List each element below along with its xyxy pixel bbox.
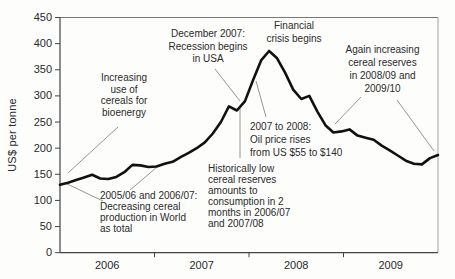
y-tick-label: 350 xyxy=(34,63,52,75)
y-axis-title: US$ per tonne xyxy=(6,98,18,172)
y-tick-label: 100 xyxy=(34,194,52,206)
leader-line-bioenergy xyxy=(68,127,118,173)
leader-line-decreasing-production xyxy=(130,167,157,190)
annotation-again-increasing: Again increasing cereal reserves in 2008… xyxy=(334,43,431,95)
leader-line-again-increasing xyxy=(397,100,434,151)
x-tick-label: 2009 xyxy=(379,259,403,271)
y-tick-label: 150 xyxy=(34,168,52,180)
y-tick-label: 200 xyxy=(34,142,52,154)
x-tick-label: 2008 xyxy=(284,259,308,271)
y-tick-label: 450 xyxy=(34,11,52,23)
annotation-financial-crisis: Financial crisis begins xyxy=(254,19,334,45)
leader-line-oil-price xyxy=(256,81,266,117)
y-tick-label: 50 xyxy=(40,220,52,232)
leader-line-recession xyxy=(215,69,240,101)
annotation-recession: December 2007: Recession begins in USA xyxy=(158,28,258,66)
y-tick-label: 250 xyxy=(34,116,52,128)
y-tick-label: 300 xyxy=(34,89,52,101)
annotation-oil-price: 2007 to 2008: Oil price rises from US $5… xyxy=(250,120,355,159)
leader-line-decreasing-production xyxy=(65,183,103,201)
chart-figure: 0501001502002503003504004502006200720082… xyxy=(0,0,455,279)
x-tick-label: 2006 xyxy=(95,259,119,271)
annotation-bioenergy: Increasing use of cereals for bioenergy xyxy=(79,72,169,118)
annotation-decreasing-production: 2005/06 and 2006/07: Decreasing cereal p… xyxy=(100,190,220,234)
x-tick-label: 2007 xyxy=(190,259,214,271)
y-tick-label: 0 xyxy=(46,246,52,258)
y-tick-label: 400 xyxy=(34,37,52,49)
annotation-low-reserves: Historically low cereal reserves amounts… xyxy=(208,163,303,229)
